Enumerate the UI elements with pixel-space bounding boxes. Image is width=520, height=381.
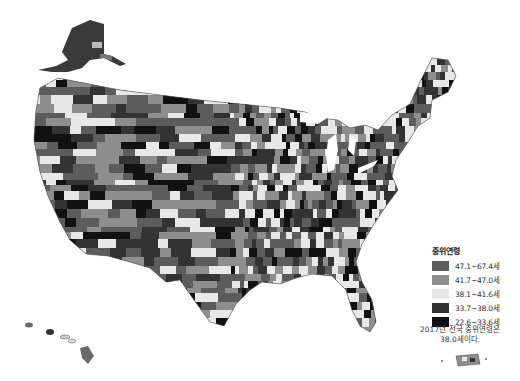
legend-label: 33.7~38.0세	[455, 302, 500, 313]
legend-note-line1: 2017년 전국 중위연령은	[405, 325, 515, 335]
legend-label: 47.1~67.4세	[455, 260, 500, 271]
legend-item: 41.7~47.0세	[432, 273, 520, 286]
hawaii	[25, 323, 94, 365]
legend-swatch	[432, 303, 449, 313]
legend-item: 38.1~41.6세	[432, 287, 520, 300]
legend-label: 41.7~47.0세	[455, 274, 500, 285]
alaska	[30, 15, 130, 75]
legend-note: 2017년 전국 중위연령은 38.0세이다.	[405, 325, 515, 345]
puerto-rico	[441, 354, 487, 366]
legend-note-line2: 38.0세이다.	[405, 335, 515, 345]
legend-title: 중위연령	[432, 245, 520, 256]
contiguous-us	[30, 50, 478, 348]
legend-swatch	[432, 261, 449, 271]
legend-item: 47.1~67.4세	[432, 259, 520, 272]
legend: 중위연령 47.1~67.4세 41.7~47.0세 38.1~41.6세 33…	[432, 245, 520, 329]
legend-label: 38.1~41.6세	[455, 288, 500, 299]
legend-swatch	[432, 289, 449, 299]
legend-item: 33.7~38.0세	[432, 301, 520, 314]
legend-swatch	[432, 275, 449, 285]
